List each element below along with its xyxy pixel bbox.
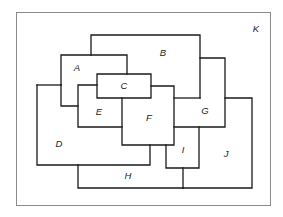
region-boundaries bbox=[37, 35, 252, 188]
boundary-edge bbox=[61, 85, 78, 106]
region-label-a: A bbox=[73, 62, 80, 73]
boundary-edge bbox=[61, 55, 127, 85]
region-label-j: J bbox=[223, 148, 229, 159]
region-labels: KABCDEFGHIJ bbox=[56, 23, 260, 181]
region-map-diagram: KABCDEFGHIJ bbox=[0, 0, 283, 217]
region-label-c: C bbox=[121, 80, 128, 91]
boundary-edge bbox=[183, 98, 252, 188]
region-label-e: E bbox=[96, 106, 103, 117]
region-label-i: I bbox=[182, 144, 185, 155]
boundary-edge bbox=[37, 85, 150, 165]
region-label-k: K bbox=[253, 23, 260, 34]
outer-frame-k bbox=[17, 13, 271, 206]
region-label-d: D bbox=[56, 138, 63, 149]
region-label-b: B bbox=[160, 47, 167, 58]
region-label-f: F bbox=[146, 112, 153, 123]
region-label-g: G bbox=[201, 105, 208, 116]
boundary-edge bbox=[91, 35, 200, 98]
region-label-h: H bbox=[125, 170, 132, 181]
